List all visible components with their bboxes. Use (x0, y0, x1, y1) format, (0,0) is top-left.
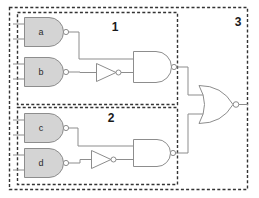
inverter-2-bubble (111, 157, 116, 162)
inverter-2-body (92, 151, 112, 169)
inverter-1[interactable] (97, 64, 122, 82)
nor-out[interactable] (199, 86, 239, 124)
wire-a-to-nand1 (69, 32, 133, 59)
wire-nand2-to-nor (176, 114, 203, 153)
wire-d-to-inverter2 (69, 160, 91, 164)
gate-d[interactable]: d (25, 149, 69, 178)
gate-a[interactable]: a (25, 18, 69, 47)
block-1-label: 1 (112, 20, 119, 34)
circuit-diagram-canvas: 3 1 2 a b (0, 0, 259, 198)
gate-d-label: d (38, 158, 43, 168)
gate-c-body (25, 114, 64, 143)
nor-out-body (199, 86, 233, 124)
gate-a-body (25, 18, 64, 47)
nand-1-inversion-bubble (171, 64, 176, 69)
gate-d-body (25, 149, 64, 178)
input-stubs-group (13, 24, 24, 170)
nand-1[interactable] (134, 52, 177, 83)
wire-c-to-nand2 (69, 128, 133, 146)
nand-1-body (134, 52, 172, 83)
inverter-2[interactable] (92, 151, 117, 169)
block-2-label: 2 (108, 111, 115, 125)
gate-b-inversion-bubble (63, 69, 68, 74)
nand-2[interactable] (134, 140, 176, 167)
gate-a-inversion-bubble (63, 29, 68, 34)
inverter-1-body (97, 64, 117, 82)
inverter-1-bubble (116, 70, 121, 75)
gate-b-label: b (38, 67, 43, 77)
gate-c[interactable]: c (25, 114, 69, 143)
circuit-diagram-svg: 3 1 2 a b (0, 0, 259, 198)
gate-c-inversion-bubble (63, 125, 68, 130)
gate-a-label: a (38, 27, 43, 37)
gate-b[interactable]: b (25, 58, 69, 87)
block-3-label: 3 (235, 15, 242, 29)
nand-2-body (134, 140, 171, 167)
nor-out-inversion-bubble (233, 102, 239, 108)
wire-nand1-to-nor (177, 67, 203, 95)
nand-2-inversion-bubble (170, 150, 175, 155)
gate-b-body (25, 58, 64, 87)
gate-c-label: c (39, 123, 44, 133)
wire-b-to-inverter1 (69, 72, 96, 73)
gate-d-inversion-bubble (63, 160, 68, 165)
